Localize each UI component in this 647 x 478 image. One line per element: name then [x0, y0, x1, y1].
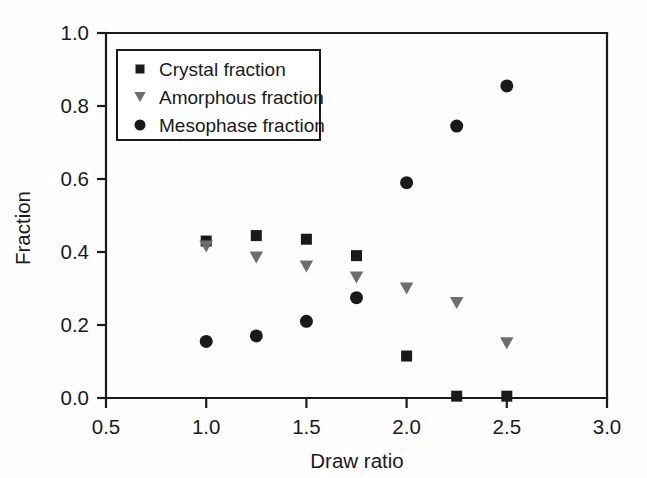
data-point-s0-3	[351, 250, 362, 261]
legend-label-2: Mesophase fraction	[159, 115, 325, 136]
x-axis-title: Draw ratio	[310, 449, 403, 472]
x-tick-label-3: 2.0	[392, 415, 421, 438]
x-tick-label-1: 1.0	[192, 415, 221, 438]
legend: Crystal fractionAmorphous fractionMesoph…	[117, 50, 325, 140]
data-point-s0-5	[451, 391, 462, 402]
legend-label-1: Amorphous fraction	[159, 87, 324, 108]
data-point-s0-2	[301, 234, 312, 245]
data-point-s0-1	[251, 230, 262, 241]
data-point-s2-1	[250, 329, 263, 342]
y-tick-label-3: 0.6	[61, 167, 90, 190]
scatter-plot-figure: 0.51.01.52.02.53.0 0.00.20.40.60.81.0 Dr…	[0, 0, 647, 478]
y-tick-label-5: 1.0	[61, 21, 90, 44]
data-point-s2-4	[400, 176, 413, 189]
x-tick-label-5: 3.0	[593, 415, 622, 438]
figure-background	[0, 0, 647, 478]
legend-marker-0	[136, 65, 145, 74]
x-tick-label-2: 1.5	[292, 415, 321, 438]
y-tick-label-1: 0.2	[61, 313, 90, 336]
data-point-s2-6	[500, 79, 513, 92]
x-tick-label-4: 2.5	[493, 415, 522, 438]
x-tick-label-0: 0.5	[92, 415, 121, 438]
data-point-s2-3	[350, 291, 363, 304]
data-point-s2-5	[450, 120, 463, 133]
y-tick-label-2: 0.4	[61, 240, 90, 263]
data-point-s0-4	[401, 351, 412, 362]
legend-label-0: Crystal fraction	[159, 59, 286, 80]
y-axis-title: Fraction	[11, 191, 34, 265]
data-point-s2-0	[200, 335, 213, 348]
y-tick-label-0: 0.0	[61, 386, 90, 409]
y-tick-label-4: 0.8	[61, 94, 90, 117]
legend-marker-2	[135, 120, 146, 131]
plot-canvas: 0.51.01.52.02.53.0 0.00.20.40.60.81.0 Dr…	[0, 0, 647, 478]
data-point-s0-6	[501, 391, 512, 402]
data-point-s2-2	[300, 315, 313, 328]
